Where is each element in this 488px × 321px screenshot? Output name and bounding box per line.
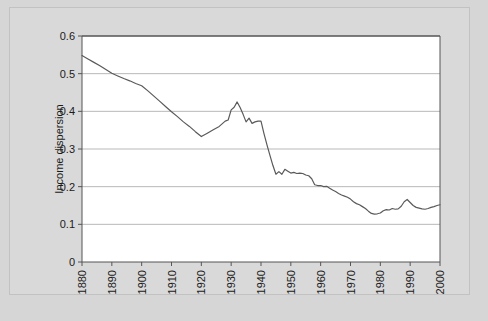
y-tick-label: 0.6 <box>60 30 75 42</box>
x-tick-label: 1880 <box>76 270 88 294</box>
x-tick-label: 1940 <box>255 270 267 294</box>
x-tick-label: 1970 <box>345 270 357 294</box>
income-dispersion-line-chart: 00.10.20.30.40.50.6 18801890190019101920… <box>0 0 488 321</box>
x-tick-label: 1950 <box>285 270 297 294</box>
x-axis-ticks: 1880189019001910192019301940195019601970… <box>76 262 446 294</box>
x-tick-label: 1990 <box>404 270 416 294</box>
x-tick-label: 1900 <box>136 270 148 294</box>
y-tick-label: 0.1 <box>60 218 75 230</box>
y-tick-label: 0 <box>69 256 75 268</box>
x-tick-label: 1930 <box>225 270 237 294</box>
x-tick-label: 1910 <box>166 270 178 294</box>
x-tick-label: 1920 <box>195 270 207 294</box>
caption-fragment <box>9 305 309 319</box>
x-tick-label: 1960 <box>315 270 327 294</box>
y-axis-title: Income dispersion <box>53 104 65 193</box>
figure-root: 00.10.20.30.40.50.6 18801890190019101920… <box>0 0 488 321</box>
x-tick-label: 1890 <box>106 270 118 294</box>
x-tick-label: 2000 <box>434 270 446 294</box>
chart-area: 00.10.20.30.40.50.6 18801890190019101920… <box>0 0 488 321</box>
x-tick-label: 1980 <box>374 270 386 294</box>
y-tick-label: 0.5 <box>60 68 75 80</box>
